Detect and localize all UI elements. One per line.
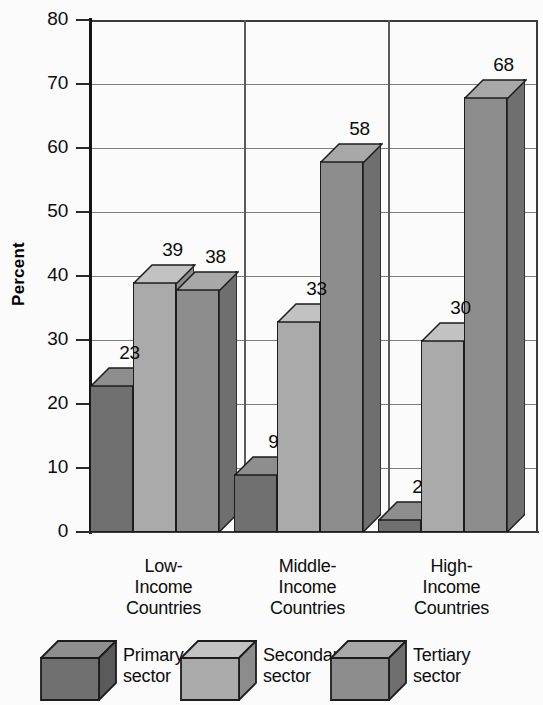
legend-label-line1: Primary xyxy=(123,645,184,666)
category-label-line: Income xyxy=(362,577,542,598)
group-divider-2 xyxy=(388,20,390,532)
y-tick-label-10: 10 xyxy=(10,456,68,478)
bar-tertiary-sector-group-2 xyxy=(320,143,381,532)
bar-front-face xyxy=(176,289,219,532)
bar-value-label-secondary-middle: 33 xyxy=(287,278,347,300)
bar-value-label-secondary-high: 30 xyxy=(431,297,491,319)
y-tick-label-40: 40 xyxy=(10,264,68,286)
tick-mark-70 xyxy=(76,83,90,85)
tick-mark-60 xyxy=(76,147,90,149)
bar-top-face xyxy=(320,143,383,163)
legend-label: Primarysector xyxy=(123,645,184,687)
tick-mark-30 xyxy=(76,339,90,341)
tick-mark-20 xyxy=(76,403,90,405)
chart-legend: PrimarysectorSecondarysectorTertiarysect… xyxy=(0,632,543,705)
y-tick-label-0: 0 xyxy=(10,520,68,542)
legend-cube-icon xyxy=(180,640,258,696)
tick-mark-0 xyxy=(76,531,90,533)
category-label-2: High-IncomeCountries xyxy=(362,556,542,619)
bar-value-label-primary-low: 23 xyxy=(100,342,160,364)
legend-cube-icon xyxy=(330,640,408,696)
legend-label-line1: Tertiary xyxy=(413,645,470,666)
y-tick-label-60: 60 xyxy=(10,136,68,158)
bar-value-label-tertiary-low: 38 xyxy=(186,246,246,268)
legend-label-line2: sector xyxy=(413,666,470,687)
y-tick-label-50: 50 xyxy=(10,200,68,222)
bar-top-face xyxy=(176,271,239,291)
bar-front-face xyxy=(234,474,277,532)
bar-side-face xyxy=(363,143,381,532)
bar-tertiary-sector-group-1 xyxy=(176,271,237,532)
bar-front-face xyxy=(133,282,176,532)
tick-mark-10 xyxy=(76,467,90,469)
y-tick-label-30: 30 xyxy=(10,328,68,350)
tick-mark-50 xyxy=(76,211,90,213)
bar-value-label-tertiary-middle: 58 xyxy=(330,118,390,140)
bar-front-face xyxy=(90,385,133,532)
category-label-line: Countries xyxy=(362,598,542,619)
group-divider-1 xyxy=(244,20,246,532)
legend-cube-icon xyxy=(40,640,118,696)
y-tick-label-70: 70 xyxy=(10,72,68,94)
bar-front-face xyxy=(421,340,464,532)
bar-front-face xyxy=(320,161,363,532)
bar-value-label-tertiary-high: 68 xyxy=(474,54,534,76)
bar-value-label-primary-middle: 9 xyxy=(244,431,304,453)
y-tick-label-20: 20 xyxy=(10,392,68,414)
tick-mark-80 xyxy=(76,19,90,21)
bar-front-face xyxy=(277,321,320,532)
bar-side-face xyxy=(507,79,525,532)
bar-value-label-primary-high: 2 xyxy=(388,476,448,498)
bar-chart: Percent 01020304050607080 23393893358230… xyxy=(0,0,543,705)
y-tick-label-80: 80 xyxy=(10,8,68,30)
category-label-line: High- xyxy=(362,556,542,577)
tick-mark-40 xyxy=(76,275,90,277)
legend-label: Tertiarysector xyxy=(413,645,470,687)
legend-label-line2: sector xyxy=(123,666,184,687)
bar-top-face xyxy=(464,79,527,99)
